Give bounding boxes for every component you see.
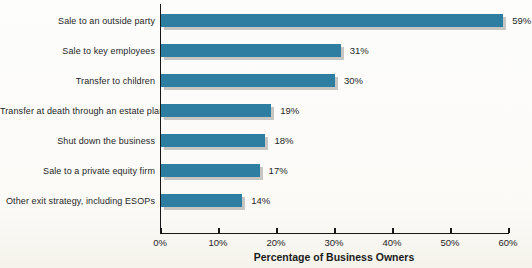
value-label: 59% bbox=[512, 15, 531, 27]
x-tick-label: 30% bbox=[318, 237, 350, 248]
value-label: 31% bbox=[350, 45, 369, 57]
plot-area: 59%31%30%19%18%17%14% bbox=[160, 4, 509, 234]
value-label: 18% bbox=[274, 135, 293, 147]
bar bbox=[161, 104, 271, 117]
value-label: 14% bbox=[251, 195, 270, 207]
value-label: 19% bbox=[280, 105, 299, 117]
bar bbox=[161, 14, 503, 27]
x-tick-labels: 0%10%20%30%40%50%60% bbox=[160, 237, 508, 249]
category-labels: Sale to an outside partySale to key empl… bbox=[0, 4, 155, 233]
x-tick bbox=[334, 228, 335, 233]
x-tick-label: 50% bbox=[434, 237, 466, 248]
bar bbox=[161, 74, 335, 87]
x-tick bbox=[508, 228, 509, 233]
category-label: Transfer at death through an estate plan bbox=[0, 105, 155, 117]
category-label: Sale to key employees bbox=[0, 45, 155, 57]
bar bbox=[161, 44, 341, 57]
bar bbox=[161, 164, 260, 177]
x-tick bbox=[392, 228, 393, 233]
category-label: Other exit strategy, including ESOPs bbox=[0, 195, 155, 207]
x-tick-label: 0% bbox=[144, 237, 176, 248]
category-label: Transfer to children bbox=[0, 75, 155, 87]
category-label: Shut down the business bbox=[0, 135, 155, 147]
value-label: 30% bbox=[344, 75, 363, 87]
x-axis-title: Percentage of Business Owners bbox=[160, 251, 508, 263]
x-tick-label: 60% bbox=[492, 237, 524, 248]
x-tick bbox=[276, 228, 277, 233]
bar bbox=[161, 134, 265, 147]
value-label: 17% bbox=[269, 165, 288, 177]
x-tick bbox=[218, 228, 219, 233]
bar bbox=[161, 194, 242, 207]
x-tick-label: 20% bbox=[260, 237, 292, 248]
category-label: Sale to an outside party bbox=[0, 15, 155, 27]
x-tick bbox=[160, 228, 161, 233]
x-tick-label: 10% bbox=[202, 237, 234, 248]
category-label: Sale to a private equity firm bbox=[0, 165, 155, 177]
x-tick bbox=[450, 228, 451, 233]
bar-chart-figure: Sale to an outside partySale to key empl… bbox=[0, 0, 532, 268]
x-tick-label: 40% bbox=[376, 237, 408, 248]
